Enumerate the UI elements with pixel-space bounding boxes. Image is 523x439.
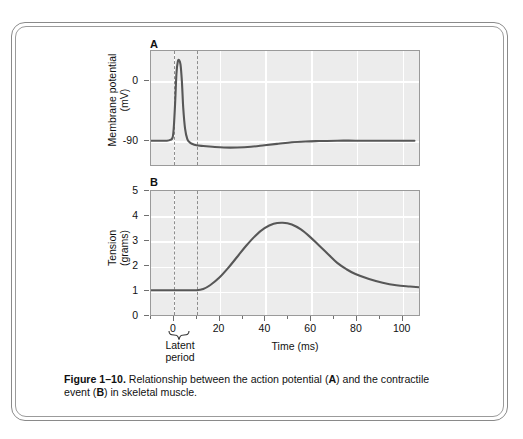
panel-b-ytick-mark-5 xyxy=(144,190,149,191)
panel-b-xtick-mark-40 xyxy=(264,316,265,321)
caption-text-part4: ) in skeletal muscle. xyxy=(104,386,197,398)
panel-b-x-axis-title: Time (ms) xyxy=(250,340,340,352)
panel-b-ytick-5: 5 xyxy=(118,184,138,196)
panel-b-ytick-mark-4 xyxy=(144,215,149,216)
caption-figure-number: Figure 1–10. xyxy=(64,373,126,385)
caption-emphasis-a: A xyxy=(328,373,336,385)
panel-b-xtick-label-40: 40 xyxy=(249,322,279,334)
panel-b-xtick-label-100: 100 xyxy=(387,322,417,334)
panel-b-xtick-mark-0 xyxy=(173,316,174,321)
panel-b-xtick-mark-minor-30 xyxy=(242,316,243,319)
panel-b-xtick-label-60: 60 xyxy=(295,322,325,334)
caption-text-part1: Relationship between the action potentia… xyxy=(126,373,329,385)
panel-b-y-axis-title-line1: Tension xyxy=(106,213,118,283)
panel-b-tension-curve xyxy=(151,191,419,315)
panel-b-letter: B xyxy=(150,176,158,188)
panel-b-ytick-mark-1 xyxy=(144,290,149,291)
caption-text-part2: ) xyxy=(336,373,340,385)
panel-b-ytick-4: 4 xyxy=(118,209,138,221)
panel-b-ytick-0: 0 xyxy=(118,309,138,321)
panel-b-xtick-mark-100 xyxy=(402,316,403,321)
panel-b-xtick-mark-minor-90 xyxy=(379,316,380,319)
panel-b-y-axis-title-line2: (grams) xyxy=(118,213,130,283)
panel-b-ytick-mark-0 xyxy=(144,315,149,316)
panel-b-plot-area xyxy=(150,190,420,316)
latent-period-label: Latent period xyxy=(140,340,220,363)
panel-b-xtick-mark-minor-10 xyxy=(196,316,197,319)
panel-b-xtick-mark-60 xyxy=(310,316,311,321)
panel-b-ytick-2: 2 xyxy=(118,259,138,271)
caption-emphasis-b: B xyxy=(96,386,104,398)
panel-b-ytick-1: 1 xyxy=(118,284,138,296)
panel-b-xtick-label-80: 80 xyxy=(341,322,371,334)
panel-b-ytick-mark-3 xyxy=(144,240,149,241)
panel-b-ytick-mark-2 xyxy=(144,265,149,266)
panel-b-tension: B Tension (grams) 5 4 3 2 1 0 xyxy=(0,0,523,370)
panel-b-xtick-mark-minor-70 xyxy=(333,316,334,319)
panel-b-xtick-label-20: 20 xyxy=(204,322,234,334)
panel-b-xtick-mark-80 xyxy=(356,316,357,321)
panel-b-ytick-3: 3 xyxy=(118,234,138,246)
figure-caption: Figure 1–10. Relationship between the ac… xyxy=(64,373,454,399)
panel-b-xtick-mark-20 xyxy=(219,316,220,321)
panel-b-xtick-mark-minor-50 xyxy=(287,316,288,319)
latent-period-line1: Latent xyxy=(140,340,220,352)
panel-b-xtick-mark-minor--10 xyxy=(150,316,151,319)
latent-period-line2: period xyxy=(140,352,220,364)
